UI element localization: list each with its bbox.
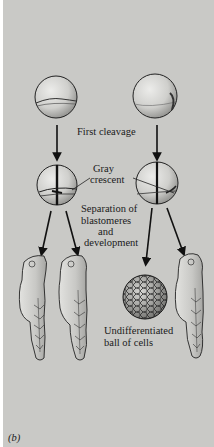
arrow-left-to-larva-2	[66, 211, 77, 252]
label-separation-line3: and	[98, 226, 113, 237]
arrow-left-to-larva-1	[42, 211, 51, 252]
right-larva-icon	[175, 254, 203, 358]
left-egg-icon	[35, 76, 77, 118]
panel-label: (b)	[8, 432, 20, 443]
label-gray-crescent-line1: Gray	[93, 163, 114, 174]
right-egg-icon	[133, 74, 177, 118]
left-larva-2-icon	[59, 255, 87, 360]
ball-of-cells-icon	[123, 275, 167, 319]
left-larva-1-icon	[19, 256, 46, 360]
left-two-cell-icon	[37, 165, 77, 205]
label-undifferentiated-line2: ball of cells	[104, 337, 153, 348]
label-separation-line1: Separation of	[81, 203, 137, 214]
arrow-right-to-larva	[167, 208, 183, 252]
label-gray-crescent-line2: crescent	[90, 174, 124, 185]
label-separation-line4: development	[84, 237, 138, 248]
label-undifferentiated-line1: Undifferentiated	[104, 325, 173, 336]
right-two-cell-icon	[136, 162, 178, 204]
label-first-cleavage: First cleavage	[77, 126, 136, 137]
label-separation-line2: blastomeres	[81, 215, 131, 226]
arrow-right-to-ball	[146, 208, 152, 262]
